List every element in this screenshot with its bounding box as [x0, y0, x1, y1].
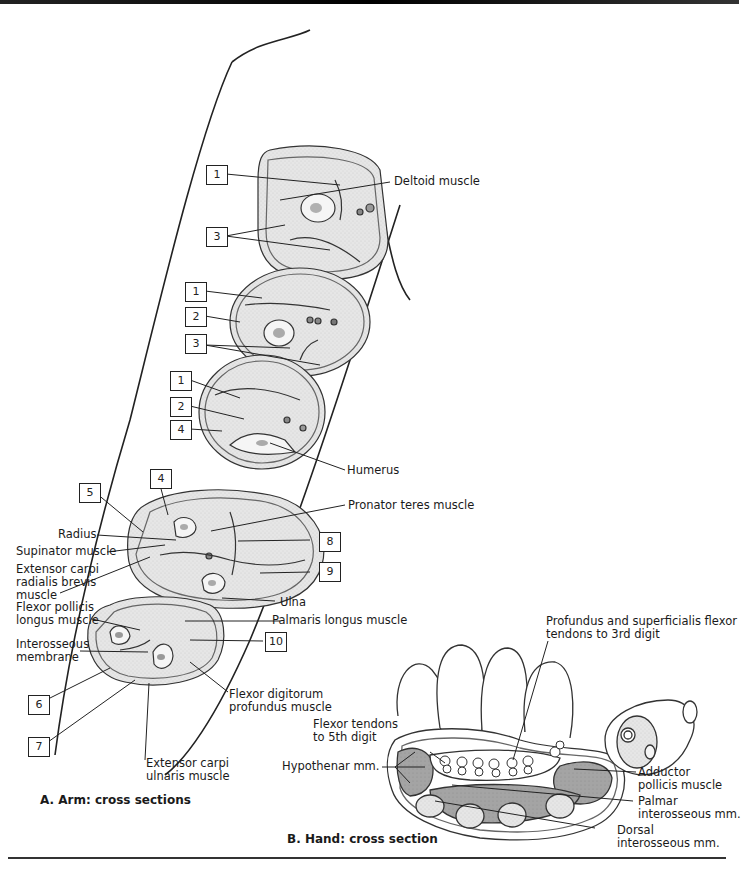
label-number-box: 1 [170, 371, 192, 391]
label-number-box: 7 [28, 737, 50, 757]
cross-section-3 [199, 355, 325, 469]
label-number-box: 4 [150, 469, 172, 489]
label-flexor-pollicis-longus: Flexor pollicis longus muscle [16, 601, 99, 627]
label-extensor-carpi-ulnaris: Extensor carpi ulnaris muscle [146, 757, 229, 783]
cross-section-4 [128, 490, 324, 608]
label-humerus: Humerus [347, 464, 399, 477]
label-flexor-digitorum-profundus: Flexor digitorum profundus muscle [229, 688, 332, 714]
label-number-box: 1 [206, 165, 228, 185]
label-number-box: 10 [265, 632, 287, 652]
label-number-box: 2 [185, 307, 207, 327]
label-number-box: 5 [79, 483, 101, 503]
label-adductor-pollicis-muscle: Adductor pollicis muscle [638, 766, 722, 792]
caption-panel-b: B. Hand: cross section [287, 832, 438, 846]
label-number-box: 3 [206, 227, 228, 247]
label-number-box: 8 [319, 532, 341, 552]
label-number-box: 1 [185, 282, 207, 302]
label-palmaris-longus-muscle: Palmaris longus muscle [272, 614, 407, 627]
label-radius: Radius [58, 528, 97, 541]
cross-section-5 [88, 597, 224, 685]
label-flexor-tendons-5th-digit: Flexor tendons to 5th digit [313, 718, 398, 744]
label-pronator-teres-muscle: Pronator teres muscle [348, 499, 474, 512]
label-dorsal-interosseous-mm: Dorsal interosseous mm. [617, 824, 720, 850]
label-extensor-carpi-radialis-brevis: Extensor carpi radialis brevis muscle [16, 563, 99, 602]
label-palmar-interosseous-mm: Palmar interosseous mm. [638, 795, 741, 821]
label-number-box: 3 [185, 334, 207, 354]
label-profundus-superficialis-tendons: Profundus and superficialis flexor tendo… [546, 615, 737, 641]
label-number-box: 9 [319, 562, 341, 582]
label-interosseous-membrane: Interosseous membrane [16, 638, 89, 664]
label-deltoid-muscle: Deltoid muscle [394, 175, 480, 188]
cross-section-1 [258, 146, 388, 280]
label-number-box: 2 [170, 397, 192, 417]
label-hypothenar-mm: Hypothenar mm. [282, 760, 379, 773]
caption-panel-a: A. Arm: cross sections [40, 793, 191, 807]
label-number-box: 4 [170, 420, 192, 440]
label-supinator-muscle: Supinator muscle [16, 545, 116, 558]
label-number-box: 6 [28, 695, 50, 715]
bottom-divider [8, 857, 726, 859]
label-ulna: Ulna [280, 596, 306, 609]
